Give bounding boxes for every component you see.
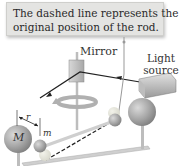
light-source-label-line1: Light bbox=[143, 52, 179, 64]
stand-right bbox=[141, 125, 144, 149]
large-mass-label: M bbox=[13, 131, 24, 144]
cavendish-diagram bbox=[0, 0, 185, 166]
small-mass-left bbox=[34, 140, 47, 153]
light-source-label-line2: source bbox=[143, 64, 179, 76]
rotation-arrow-icon bbox=[52, 97, 96, 107]
small-mass-label: m bbox=[43, 128, 52, 138]
light-source-label: Light source bbox=[143, 52, 179, 76]
callout-pointer bbox=[123, 37, 126, 74]
mirror bbox=[69, 60, 84, 82]
large-mass-right bbox=[128, 98, 156, 126]
small-mass-right bbox=[109, 114, 122, 127]
distance-label: r bbox=[26, 112, 30, 122]
mirror-label: Mirror bbox=[80, 45, 117, 58]
light-beam bbox=[40, 72, 140, 98]
light-source bbox=[139, 73, 176, 98]
